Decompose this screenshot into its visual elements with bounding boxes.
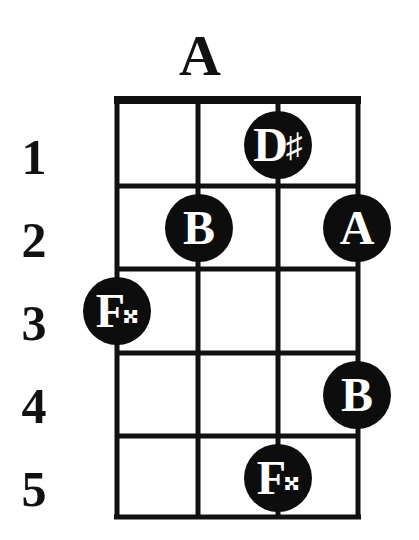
note-dot-d-sharp: D♯ <box>244 111 312 179</box>
note-label: B <box>183 201 215 254</box>
note-label: F <box>257 451 286 504</box>
note-label: F <box>96 284 125 337</box>
double-sharp-icon: 𝄪 <box>123 293 138 330</box>
double-sharp-icon: 𝄪 <box>284 460 299 497</box>
note-dot-f-double-sharp: F𝄪 <box>244 444 312 512</box>
note-dot-a: A <box>323 194 391 262</box>
note-label: A <box>340 201 375 254</box>
note-dot-b: B <box>165 194 233 262</box>
note-dot-f-double-sharp: F𝄪 <box>83 277 151 345</box>
sharp-icon: ♯ <box>286 127 303 164</box>
fretboard-grid <box>0 0 419 540</box>
note-label: D <box>253 118 288 171</box>
note-dot-b: B <box>323 361 391 429</box>
note-label: B <box>341 368 373 421</box>
